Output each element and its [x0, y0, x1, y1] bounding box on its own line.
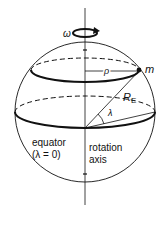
rotation-axis-label-line1: rotation: [89, 142, 122, 153]
rho-label: ρ: [103, 66, 109, 76]
rotation-axis-label-line2: axis: [89, 154, 107, 165]
earth-rotation-diagram: ω ρ m RE λ equator (λ = 0) rotation axis: [0, 0, 167, 225]
earth-radius-label: RE: [123, 91, 136, 105]
mass-point-icon: [137, 68, 142, 73]
equator-label: equator: [32, 137, 67, 148]
omega-label: ω: [63, 28, 71, 39]
equator-condition-label: (λ = 0): [32, 149, 61, 160]
mass-label: m: [145, 63, 154, 75]
lambda-label: λ: [107, 108, 112, 118]
lambda-arc: [98, 114, 104, 124]
rotation-arrow-icon: [73, 27, 100, 37]
